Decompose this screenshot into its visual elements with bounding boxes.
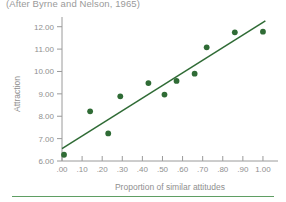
y-axis-title: Attraction	[12, 76, 22, 112]
figure-container: (After Byrne and Nelson, 1965) 6.007.008…	[0, 0, 286, 202]
data-point	[260, 29, 266, 35]
x-tick-label: .80	[217, 165, 229, 174]
data-point	[204, 44, 210, 50]
x-tick-label: .50	[157, 165, 169, 174]
x-tick-label: .70	[197, 165, 209, 174]
regression-line	[62, 21, 265, 149]
y-tick-label: 6.00	[38, 157, 54, 166]
y-tick-label: 11.00	[35, 45, 55, 54]
y-tick-label: 10.00	[34, 67, 55, 76]
y-tick-label: 8.00	[38, 112, 54, 121]
data-point	[61, 152, 67, 158]
data-point	[117, 93, 123, 99]
x-tick-label: .40	[137, 165, 149, 174]
data-point	[192, 71, 198, 77]
x-tick-label: .30	[117, 165, 129, 174]
x-tick-label: .90	[237, 165, 249, 174]
x-tick-label: .00	[56, 165, 68, 174]
x-axis-group: .00.10.20.30.40.50.60.70.80.901.00 Propo…	[56, 156, 278, 192]
y-tick-label: 7.00	[38, 135, 54, 144]
data-point	[105, 131, 111, 137]
y-axis-group: 6.007.008.009.0010.0011.0012.00 Attracti…	[12, 17, 62, 166]
scatter-plot: 6.007.008.009.0010.0011.0012.00 Attracti…	[0, 0, 286, 202]
x-tick-labels: .00.10.20.30.40.50.60.70.80.901.00	[56, 165, 271, 174]
x-tick-label: .60	[177, 165, 189, 174]
y-tick-label: 12.00	[34, 23, 55, 32]
x-tick-marks	[62, 156, 263, 161]
data-points-group	[61, 29, 266, 158]
x-axis-title: Proportion of similar attitudes	[115, 182, 225, 192]
data-point	[146, 80, 152, 86]
x-tick-label: .20	[97, 165, 109, 174]
y-tick-labels: 6.007.008.009.0010.0011.0012.00	[34, 23, 55, 166]
x-tick-label: 1.00	[255, 165, 271, 174]
data-point	[162, 92, 168, 98]
footer-divider	[12, 196, 274, 197]
data-point	[232, 29, 238, 35]
x-tick-label: .10	[77, 165, 89, 174]
data-point	[87, 108, 93, 114]
y-tick-marks	[57, 27, 62, 161]
y-tick-label: 9.00	[38, 90, 54, 99]
data-point	[174, 78, 180, 84]
regression-line-group	[62, 21, 265, 149]
